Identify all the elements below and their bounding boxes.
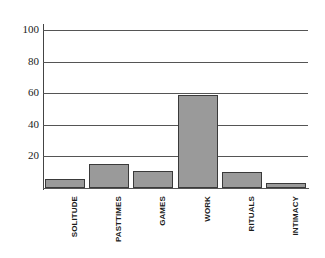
bar-solitude[interactable]: [45, 179, 85, 188]
y-tick-label-80: 80: [5, 56, 39, 67]
x-tick-label-rituals: RITUALS: [246, 196, 258, 254]
y-tick-label-40: 40: [5, 119, 39, 130]
gridline-40: [43, 125, 308, 126]
x-tick-label-pasttimes-text: PASTTIMES: [113, 196, 125, 254]
x-tick-label-intimacy-text: INTIMACY: [290, 196, 302, 254]
bar-pasttimes[interactable]: [89, 164, 129, 188]
x-tick-label-games-text: GAMES: [157, 196, 169, 254]
x-tick-label-work-text: WORK: [202, 196, 214, 254]
plot-area: [43, 30, 308, 188]
y-tick-label-100: 100: [5, 24, 39, 35]
gridline-20: [43, 156, 308, 157]
gridline-60: [43, 93, 308, 94]
x-tick-label-solitude-text: SOLITUDE: [69, 196, 81, 254]
bar-work[interactable]: [178, 95, 218, 188]
bar-chart: 20 40 60 80 100 SOLITUDE PASTTIMES GAMES…: [0, 0, 325, 258]
y-axis-tick-labels: 20 40 60 80 100: [0, 0, 39, 258]
x-tick-label-pasttimes: PASTTIMES: [113, 196, 125, 254]
x-tick-label-games: GAMES: [157, 196, 169, 254]
bar-rituals[interactable]: [222, 172, 262, 188]
bar-games[interactable]: [133, 171, 173, 188]
y-tick-label-20: 20: [5, 150, 39, 161]
x-axis-line: [43, 188, 309, 189]
y-tick-label-60: 60: [5, 87, 39, 98]
gridline-80: [43, 62, 308, 63]
x-tick-label-work: WORK: [202, 196, 214, 254]
x-tick-label-intimacy: INTIMACY: [290, 196, 302, 254]
gridline-100: [43, 30, 308, 31]
x-tick-label-rituals-text: RITUALS: [246, 196, 258, 254]
x-tick-label-solitude: SOLITUDE: [69, 196, 81, 254]
